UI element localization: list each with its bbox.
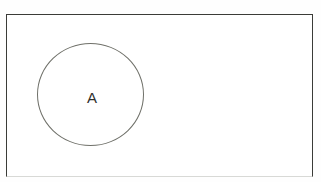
universal-set-rectangle: A	[6, 14, 313, 177]
diagram-canvas: A	[0, 0, 321, 182]
set-a-circle: A	[37, 43, 144, 146]
set-a-label: A	[38, 44, 145, 147]
